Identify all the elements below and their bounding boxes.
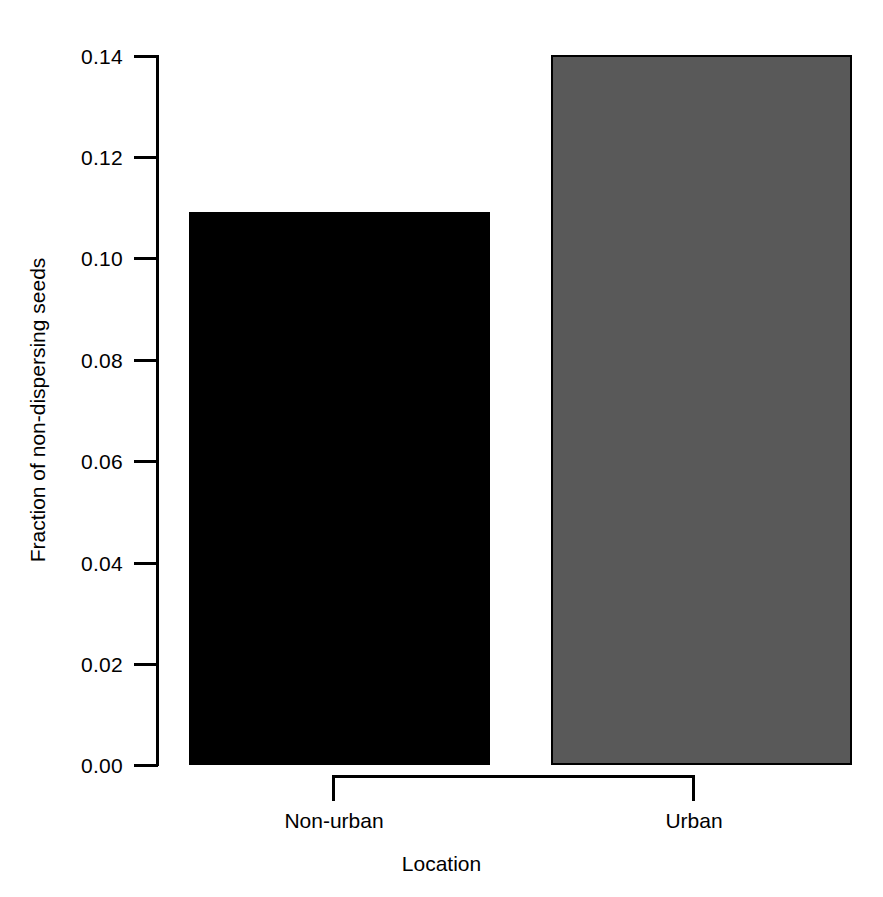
x-axis-bracket [332, 775, 695, 801]
y-axis-tick-0.04 [134, 562, 158, 565]
y-axis-tick-0.10 [134, 257, 158, 260]
y-axis-tick-0.12 [134, 156, 158, 159]
x-axis-title: Location [0, 851, 883, 877]
y-axis-tick-label: 0.00 [81, 755, 123, 776]
y-axis-tick-label: 0.04 [81, 553, 123, 574]
x-axis-tick-label-non-urban: Non-urban [284, 808, 383, 834]
y-axis-tick-0.08 [134, 359, 158, 362]
bar-chart-figure: 0.14 0.12 0.10 0.08 0.06 0.04 0.02 0.00 … [0, 0, 883, 897]
bar-non-urban [189, 212, 490, 765]
y-axis-tick-0.00 [134, 764, 158, 767]
y-axis-tick-label: 0.10 [81, 248, 123, 269]
y-axis-tick-label: 0.02 [81, 654, 123, 675]
y-axis-tick-label: 0.12 [81, 147, 123, 168]
y-axis-tick-label: 0.08 [81, 350, 123, 371]
x-axis-tick-label-urban: Urban [665, 808, 722, 834]
y-axis-tick-label: 0.06 [81, 451, 123, 472]
y-axis-tick-0.02 [134, 663, 158, 666]
y-axis-tick-label: 0.14 [81, 46, 123, 67]
y-axis-tick-0.14 [134, 55, 158, 58]
bar-urban [551, 55, 852, 765]
y-axis-tick-0.06 [134, 460, 158, 463]
y-axis-title: Fraction of non-dispersing seeds [24, 55, 52, 765]
plot-area [158, 55, 883, 765]
